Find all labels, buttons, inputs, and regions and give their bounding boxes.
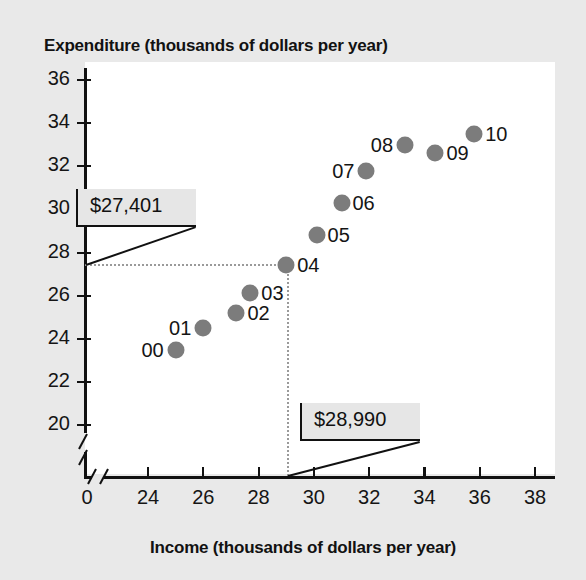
- y-tick-mark: [77, 79, 91, 81]
- expenditure-guide-line: [85, 264, 288, 266]
- data-point-00[interactable]: [167, 341, 184, 358]
- y-tick-mark: [77, 338, 91, 340]
- data-point-03[interactable]: [242, 285, 259, 302]
- data-point-label-04: 04: [297, 254, 319, 277]
- data-point-label-09: 09: [446, 142, 468, 165]
- x-tick-mark: [202, 467, 204, 478]
- y-tick-label: 28: [36, 240, 70, 263]
- x-tick-label: 38: [518, 486, 552, 509]
- data-point-label-10: 10: [485, 122, 507, 145]
- data-point-label-05: 05: [328, 224, 350, 247]
- scatter-chart-figure: Expenditure (thousands of dollars per ye…: [0, 0, 586, 580]
- data-point-04[interactable]: [278, 257, 295, 274]
- data-point-label-08: 08: [371, 133, 393, 156]
- y-tick-label: 34: [36, 110, 70, 133]
- x-tick-label: 36: [463, 486, 497, 509]
- x-tick-label: 0: [70, 486, 104, 509]
- data-point-05[interactable]: [308, 227, 325, 244]
- data-point-06[interactable]: [333, 194, 350, 211]
- x-tick-label: 28: [242, 486, 276, 509]
- data-point-02[interactable]: [228, 304, 245, 321]
- y-tick-mark: [77, 122, 91, 124]
- y-axis-title: Expenditure (thousands of dollars per ye…: [44, 36, 388, 56]
- income-guide-line: [287, 265, 289, 476]
- x-tick-mark: [479, 467, 481, 478]
- x-tick-mark: [147, 467, 149, 478]
- data-point-07[interactable]: [358, 162, 375, 179]
- data-point-01[interactable]: [195, 319, 212, 336]
- x-tick-label: 24: [131, 486, 165, 509]
- data-point-08[interactable]: [397, 136, 414, 153]
- y-tick-label: 30: [36, 196, 70, 219]
- x-axis-line: [104, 476, 555, 479]
- y-tick-label: 26: [36, 283, 70, 306]
- data-point-label-01: 01: [169, 316, 191, 339]
- y-tick-label: 36: [36, 67, 70, 90]
- y-tick-mark: [77, 165, 91, 167]
- y-tick-mark: [77, 295, 91, 297]
- x-tick-label: 32: [352, 486, 386, 509]
- y-tick-mark: [77, 381, 91, 383]
- x-tick-label: 30: [297, 486, 331, 509]
- data-point-label-03: 03: [261, 282, 283, 305]
- x-tick-label: 34: [407, 486, 441, 509]
- x-axis-title: Income (thousands of dollars per year): [150, 538, 456, 558]
- x-tick-mark: [534, 467, 536, 478]
- income-callout: $28,990: [300, 403, 420, 441]
- data-point-label-06: 06: [353, 191, 375, 214]
- x-tick-label: 26: [186, 486, 220, 509]
- y-tick-label: 32: [36, 153, 70, 176]
- data-point-09[interactable]: [427, 145, 444, 162]
- x-tick-mark: [368, 467, 370, 478]
- y-tick-label: 22: [36, 369, 70, 392]
- data-point-label-07: 07: [332, 159, 354, 182]
- y-tick-label: 20: [36, 412, 70, 435]
- y-tick-label: 24: [36, 326, 70, 349]
- x-tick-mark: [258, 467, 260, 478]
- x-tick-mark: [423, 467, 425, 478]
- y-tick-mark: [77, 252, 91, 254]
- y-tick-mark: [77, 424, 91, 426]
- data-point-label-00: 00: [141, 338, 163, 361]
- data-point-10[interactable]: [466, 125, 483, 142]
- expenditure-callout: $27,401: [76, 189, 196, 227]
